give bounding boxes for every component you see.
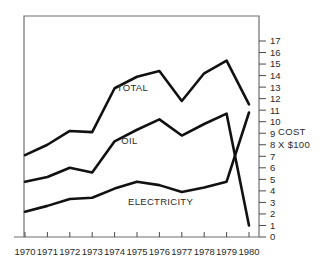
y-axis-ticks xyxy=(259,41,266,237)
x-tick-label-1971: 1971 xyxy=(37,246,58,257)
y-tick-label-3: 3 xyxy=(270,197,275,208)
series-annotation-oil: OIL xyxy=(121,135,137,146)
x-axis-ticks xyxy=(25,232,249,237)
x-tick-label-1972: 1972 xyxy=(59,246,80,257)
y-tick-label-11: 11 xyxy=(270,105,280,116)
y-tick-label-14: 14 xyxy=(270,70,281,81)
x-tick-label-1970: 1970 xyxy=(14,246,35,257)
y-tick-label-12: 12 xyxy=(270,93,281,104)
series-annotation-electricity: ELECTRICITY xyxy=(128,196,193,207)
y-tick-label-2: 2 xyxy=(270,208,275,219)
y-tick-label-13: 13 xyxy=(270,82,281,93)
y-tick-label-7: 7 xyxy=(270,151,275,162)
chart-canvas: 01234567891011121314151617 1970197119721… xyxy=(0,0,334,272)
x-tick-label-1980: 1980 xyxy=(238,246,259,257)
x-tick-label-1973: 1973 xyxy=(82,246,103,257)
y-tick-label-16: 16 xyxy=(270,47,281,58)
y-tick-label-0: 0 xyxy=(270,231,275,242)
y-tick-label-4: 4 xyxy=(270,185,275,196)
y-tick-label-8: 8 xyxy=(270,139,275,150)
y-tick-label-17: 17 xyxy=(270,35,281,46)
y-tick-label-15: 15 xyxy=(270,58,281,69)
chart-annotations: TOTALOILELECTRICITYCOSTX $100 xyxy=(117,82,310,207)
x-tick-label-1976: 1976 xyxy=(149,246,170,257)
series-line-oil xyxy=(25,114,249,226)
axis-unit-label-cost: COST xyxy=(278,126,306,137)
line-chart: 01234567891011121314151617 1970197119721… xyxy=(0,0,334,272)
x-tick-label-1974: 1974 xyxy=(104,246,125,257)
x-axis-tick-labels: 1970197119721973197419751976197719781979… xyxy=(14,246,259,257)
y-tick-label-10: 10 xyxy=(270,116,281,127)
y-tick-label-1: 1 xyxy=(270,220,275,231)
x-tick-label-1975: 1975 xyxy=(126,246,147,257)
x-tick-label-1979: 1979 xyxy=(216,246,237,257)
x-tick-label-1978: 1978 xyxy=(194,246,215,257)
y-tick-label-5: 5 xyxy=(270,174,275,185)
axis-unit-label-x-100: X $100 xyxy=(278,139,310,150)
y-tick-label-9: 9 xyxy=(270,128,275,139)
y-tick-label-6: 6 xyxy=(270,162,275,173)
series-annotation-total: TOTAL xyxy=(117,82,148,93)
x-tick-label-1977: 1977 xyxy=(171,246,192,257)
